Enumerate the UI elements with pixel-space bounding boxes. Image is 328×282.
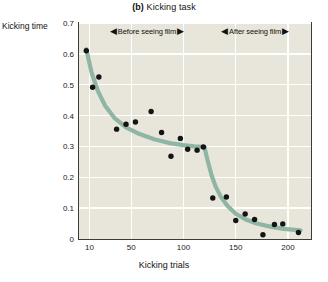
arrow-right-icon: ▶ <box>177 27 184 36</box>
arrow-left-icon: ◀ <box>110 27 117 36</box>
phase-annotation-before: ◀Before seeing film▶ <box>89 27 204 36</box>
annotation-label: Before seeing film <box>118 27 176 36</box>
arrow-left-icon: ◀ <box>221 27 228 36</box>
x-tick-label: 200 <box>273 243 303 252</box>
x-tick-label: 50 <box>116 243 146 252</box>
phase-annotation-after: ◀After seeing film▶ <box>206 27 303 36</box>
annotation-label: After seeing film <box>229 27 281 36</box>
x-axis-ticks: 1050100150200 <box>0 0 328 282</box>
figure-container: (b) Kicking task Kicking time Kicking tr… <box>0 0 328 282</box>
arrow-right-icon: ▶ <box>282 27 289 36</box>
x-tick-label: 10 <box>74 243 104 252</box>
x-tick-label: 100 <box>169 243 199 252</box>
x-tick-label: 150 <box>221 243 251 252</box>
